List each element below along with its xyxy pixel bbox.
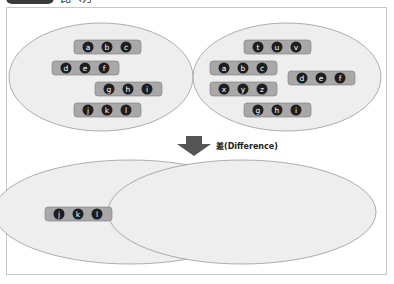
element-group: ghi: [244, 103, 311, 117]
element-label: v: [294, 43, 299, 52]
element-label: e: [319, 74, 324, 83]
element-group: tuv: [244, 40, 311, 54]
element-label: g: [256, 106, 261, 115]
element-label: j: [86, 106, 89, 115]
element-label: u: [275, 43, 280, 52]
element-label: i: [146, 85, 148, 94]
element-label: k: [76, 210, 81, 219]
element-label: l: [125, 106, 127, 115]
element-label: e: [83, 64, 88, 73]
element-label: j: [57, 210, 60, 219]
element-group: jkl: [45, 207, 112, 221]
element-label: x: [222, 85, 227, 94]
element-label: i: [295, 106, 297, 115]
element-label: a: [86, 43, 91, 52]
element-label: c: [124, 43, 128, 52]
element-label: b: [241, 64, 246, 73]
operation-label: 差(Difference): [216, 140, 278, 151]
element-group: xyz: [210, 82, 277, 96]
element-label: f: [339, 74, 342, 83]
element-group: jkl: [74, 103, 141, 117]
element-label: g: [107, 85, 112, 94]
element-label: h: [126, 85, 131, 94]
result-right-ellipse: [108, 160, 376, 264]
down-arrow-icon: [177, 136, 211, 156]
element-label: t: [257, 43, 260, 52]
element-group: ghi: [95, 82, 162, 96]
element-group: def: [288, 71, 355, 85]
element-label: d: [300, 74, 305, 83]
element-label: h: [275, 106, 280, 115]
element-label: k: [105, 106, 110, 115]
element-group: abc: [74, 40, 141, 54]
element-label: d: [64, 64, 69, 73]
element-label: a: [222, 64, 227, 73]
element-group: abc: [210, 61, 277, 75]
set-difference-diagram: abcdefghijkl tuvabcdefxyzghi jkl: [0, 0, 394, 284]
element-label: l: [96, 210, 98, 219]
element-label: y: [241, 85, 246, 94]
element-group: def: [52, 61, 119, 75]
result-groups: jkl: [45, 207, 112, 221]
element-label: c: [260, 64, 264, 73]
element-label: z: [260, 85, 264, 94]
element-label: b: [105, 43, 110, 52]
element-label: f: [103, 64, 106, 73]
